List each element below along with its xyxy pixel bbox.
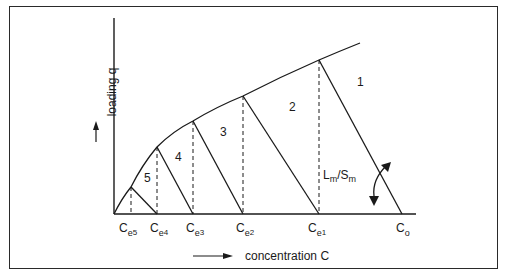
x-arrow-head <box>223 253 233 259</box>
tick-ce4: Ce4 <box>150 222 168 234</box>
operating-line-2 <box>243 96 319 214</box>
tick-co: Co <box>396 222 410 234</box>
x-axis-label: concentration C <box>245 250 329 262</box>
stage-label-4: 4 <box>175 151 182 163</box>
tick-ce5: Ce5 <box>119 222 137 234</box>
stage-label-3: 3 <box>220 126 227 138</box>
arc-arrowhead-bottom <box>369 196 379 206</box>
operating-line-3 <box>193 121 243 214</box>
y-axis-label: loading q <box>105 68 119 117</box>
slope-label: Lm/Sm <box>323 169 356 181</box>
y-arrow-head <box>93 121 99 130</box>
tick-ce3: Ce3 <box>186 222 204 234</box>
stage-label-5: 5 <box>144 172 151 184</box>
operating-line-5 <box>131 187 157 214</box>
tick-ce2: Ce2 <box>236 222 254 234</box>
stage-label-2: 2 <box>289 101 296 113</box>
tick-ce1: Ce1 <box>308 222 326 234</box>
stage-label-1: 1 <box>357 76 364 88</box>
